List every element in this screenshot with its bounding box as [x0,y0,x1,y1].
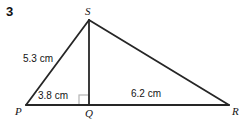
measure-label-ps: 5.3 cm [22,54,54,64]
right-angle-marker [79,95,89,105]
vertex-label-q: Q [85,108,93,119]
vertex-label-s: S [85,6,91,17]
measure-label-pq: 3.8 cm [37,91,69,101]
measure-label-qr: 6.2 cm [130,89,162,99]
vertex-label-p: P [15,106,22,117]
triangle-diagram [0,0,251,128]
vertex-label-r: R [232,106,239,117]
figure-panel: 3 S P Q R 5.3 cm 3.8 cm 6.2 cm [0,0,251,128]
